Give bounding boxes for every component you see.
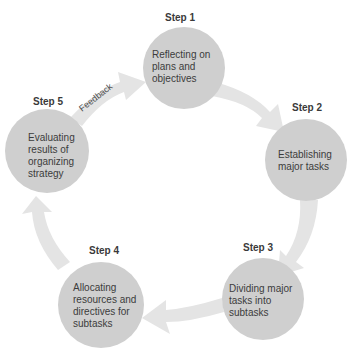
step-2-text: Establishing major tasks xyxy=(278,149,332,173)
step-3-label: Step 3 xyxy=(243,242,273,253)
arrow-step1-to-step2 xyxy=(212,82,284,132)
step-3-text: Dividing major tasks into subtasks xyxy=(229,283,292,319)
step-2-label: Step 2 xyxy=(292,102,322,113)
step-5-text: Evaluating results of organizing strateg… xyxy=(28,132,75,180)
arrow-step3-to-step4 xyxy=(142,298,224,334)
step-1-text: Reflecting on plans and objectives xyxy=(152,49,210,85)
step-4-label: Step 4 xyxy=(89,245,119,256)
step-4-text: Allocating resources and directives for … xyxy=(73,282,136,330)
arrow-step5-to-step1-feedback xyxy=(70,72,146,126)
step-5-label: Step 5 xyxy=(33,96,63,107)
step-1-label: Step 1 xyxy=(165,12,195,23)
arrow-step4-to-step5 xyxy=(22,196,70,270)
